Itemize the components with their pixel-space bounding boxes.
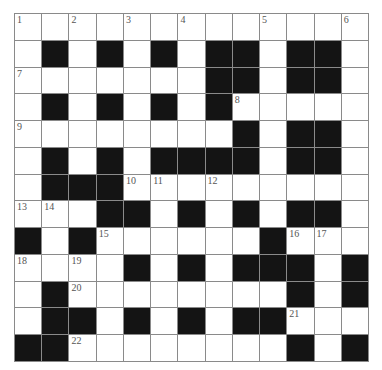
answer-cell[interactable] — [42, 68, 68, 94]
answer-cell[interactable] — [206, 201, 232, 227]
answer-cell[interactable] — [124, 41, 150, 67]
answer-cell[interactable] — [260, 201, 286, 227]
answer-cell[interactable]: 11 — [151, 175, 177, 201]
answer-cell[interactable] — [124, 282, 150, 308]
answer-cell[interactable] — [315, 308, 341, 334]
answer-cell[interactable] — [42, 255, 68, 281]
answer-cell[interactable]: 22 — [69, 335, 95, 361]
answer-cell[interactable] — [260, 94, 286, 120]
answer-cell[interactable] — [233, 175, 259, 201]
answer-cell[interactable]: 10 — [124, 175, 150, 201]
answer-cell[interactable] — [97, 308, 123, 334]
answer-cell[interactable] — [260, 68, 286, 94]
answer-cell[interactable] — [178, 41, 204, 67]
answer-cell[interactable] — [206, 228, 232, 254]
answer-cell[interactable] — [260, 148, 286, 174]
answer-cell[interactable] — [233, 282, 259, 308]
answer-cell[interactable] — [315, 94, 341, 120]
answer-cell[interactable] — [69, 201, 95, 227]
answer-cell[interactable]: 16 — [287, 228, 313, 254]
answer-cell[interactable]: 7 — [15, 68, 41, 94]
answer-cell[interactable] — [15, 148, 41, 174]
answer-cell[interactable]: 4 — [178, 14, 204, 40]
answer-cell[interactable]: 15 — [97, 228, 123, 254]
answer-cell[interactable]: 19 — [69, 255, 95, 281]
answer-cell[interactable] — [206, 121, 232, 147]
answer-cell[interactable] — [69, 94, 95, 120]
answer-cell[interactable] — [206, 335, 232, 361]
answer-cell[interactable] — [151, 68, 177, 94]
answer-cell[interactable] — [69, 148, 95, 174]
answer-cell[interactable] — [69, 121, 95, 147]
answer-cell[interactable] — [97, 121, 123, 147]
answer-cell[interactable]: 12 — [206, 175, 232, 201]
answer-cell[interactable] — [315, 335, 341, 361]
answer-cell[interactable]: 20 — [69, 282, 95, 308]
answer-cell[interactable]: 8 — [233, 94, 259, 120]
answer-cell[interactable] — [124, 94, 150, 120]
answer-cell[interactable] — [206, 308, 232, 334]
answer-cell[interactable] — [260, 175, 286, 201]
answer-cell[interactable] — [287, 14, 313, 40]
answer-cell[interactable] — [15, 282, 41, 308]
answer-cell[interactable] — [178, 68, 204, 94]
answer-cell[interactable] — [342, 175, 368, 201]
answer-cell[interactable] — [178, 282, 204, 308]
answer-cell[interactable] — [315, 175, 341, 201]
answer-cell[interactable] — [151, 228, 177, 254]
answer-cell[interactable] — [178, 121, 204, 147]
answer-cell[interactable]: 21 — [287, 308, 313, 334]
answer-cell[interactable] — [97, 335, 123, 361]
answer-cell[interactable]: 14 — [42, 201, 68, 227]
answer-cell[interactable] — [15, 308, 41, 334]
answer-cell[interactable] — [178, 335, 204, 361]
answer-cell[interactable] — [151, 282, 177, 308]
answer-cell[interactable] — [315, 14, 341, 40]
answer-cell[interactable] — [342, 148, 368, 174]
answer-cell[interactable] — [233, 14, 259, 40]
answer-cell[interactable]: 13 — [15, 201, 41, 227]
answer-cell[interactable] — [151, 201, 177, 227]
answer-cell[interactable] — [124, 148, 150, 174]
answer-cell[interactable] — [233, 335, 259, 361]
answer-cell[interactable] — [178, 175, 204, 201]
answer-cell[interactable] — [260, 335, 286, 361]
answer-cell[interactable] — [206, 255, 232, 281]
answer-cell[interactable] — [124, 68, 150, 94]
answer-cell[interactable]: 1 — [15, 14, 41, 40]
answer-cell[interactable] — [15, 41, 41, 67]
answer-cell[interactable] — [69, 41, 95, 67]
answer-cell[interactable] — [97, 68, 123, 94]
answer-cell[interactable] — [287, 175, 313, 201]
answer-cell[interactable] — [15, 94, 41, 120]
answer-cell[interactable]: 6 — [342, 14, 368, 40]
answer-cell[interactable] — [97, 14, 123, 40]
answer-cell[interactable] — [342, 228, 368, 254]
answer-cell[interactable] — [42, 121, 68, 147]
answer-cell[interactable] — [151, 308, 177, 334]
answer-cell[interactable]: 9 — [15, 121, 41, 147]
answer-cell[interactable] — [260, 41, 286, 67]
answer-cell[interactable] — [287, 94, 313, 120]
answer-cell[interactable] — [124, 121, 150, 147]
answer-cell[interactable] — [315, 255, 341, 281]
answer-cell[interactable] — [342, 94, 368, 120]
answer-cell[interactable] — [260, 121, 286, 147]
answer-cell[interactable] — [178, 228, 204, 254]
answer-cell[interactable] — [42, 228, 68, 254]
answer-cell[interactable]: 3 — [124, 14, 150, 40]
answer-cell[interactable] — [97, 255, 123, 281]
answer-cell[interactable] — [151, 255, 177, 281]
answer-cell[interactable] — [206, 282, 232, 308]
answer-cell[interactable]: 18 — [15, 255, 41, 281]
answer-cell[interactable] — [151, 14, 177, 40]
answer-cell[interactable] — [342, 41, 368, 67]
answer-cell[interactable] — [15, 175, 41, 201]
answer-cell[interactable] — [124, 335, 150, 361]
answer-cell[interactable] — [151, 335, 177, 361]
answer-cell[interactable] — [342, 308, 368, 334]
answer-cell[interactable] — [178, 94, 204, 120]
answer-cell[interactable] — [124, 228, 150, 254]
answer-cell[interactable]: 17 — [315, 228, 341, 254]
answer-cell[interactable] — [42, 14, 68, 40]
